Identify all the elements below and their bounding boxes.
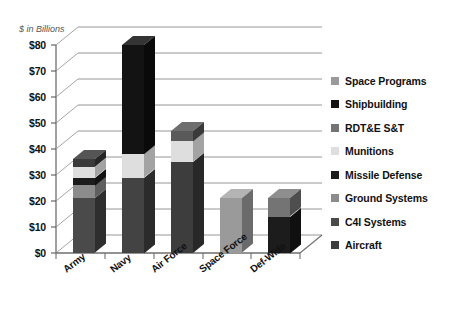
legend-label: Ground Systems [345, 192, 428, 204]
y-axis-title: $ in Billions [19, 24, 65, 34]
bar-navy[interactable] [122, 0, 144, 326]
segment-def-wide-rdte-st[interactable] [268, 198, 290, 216]
legend-swatch-icon [331, 194, 339, 202]
segment-air-force-rdte-st[interactable] [171, 131, 193, 141]
y-tick-0: $0 [6, 247, 46, 259]
y-tick-40: $40 [6, 143, 46, 155]
bar-space-force[interactable] [220, 0, 242, 326]
legend-label: Missile Defense [345, 169, 422, 181]
legend-item-c4i-systems[interactable]: C4I Systems [331, 210, 471, 234]
segment-army-munitions[interactable] [73, 167, 95, 177]
chart-legend: Space Programs Shipbuilding RDT&E S&T Mu… [331, 69, 471, 257]
legend-item-rdte-st[interactable]: RDT&E S&T [331, 116, 471, 140]
chart-container: $ in Billions $80 $70 $60 $50 $40 $30 $2… [0, 0, 474, 326]
legend-label: Shipbuilding [345, 98, 407, 110]
legend-item-space-programs[interactable]: Space Programs [331, 69, 471, 93]
y-tick-10: $10 [6, 221, 46, 233]
legend-item-munitions[interactable]: Munitions [331, 140, 471, 164]
y-tick-60: $60 [6, 91, 46, 103]
legend-item-ground-systems[interactable]: Ground Systems [331, 187, 471, 211]
legend-item-missile-defense[interactable]: Missile Defense [331, 163, 471, 187]
legend-item-shipbuilding[interactable]: Shipbuilding [331, 93, 471, 117]
legend-item-aircraft[interactable]: Aircraft [331, 234, 471, 258]
segment-air-force-munitions[interactable] [171, 141, 193, 162]
legend-swatch-icon [331, 100, 339, 108]
legend-swatch-icon [331, 218, 339, 226]
legend-label: Aircraft [345, 239, 382, 251]
segment-navy-ground-systems[interactable] [122, 178, 144, 253]
y-tick-20: $20 [6, 195, 46, 207]
legend-swatch-icon [331, 171, 339, 179]
bar-def-wide[interactable] [268, 0, 290, 326]
y-tick-80: $80 [6, 39, 46, 51]
legend-label: Space Programs [345, 75, 426, 87]
legend-label: C4I Systems [345, 216, 406, 228]
legend-swatch-icon [331, 124, 339, 132]
y-tick-30: $30 [6, 169, 46, 181]
y-tick-70: $70 [6, 65, 46, 77]
legend-label: RDT&E S&T [345, 122, 404, 134]
legend-swatch-icon [331, 77, 339, 85]
bar-air-force[interactable] [171, 0, 193, 326]
segment-navy-shipbuilding[interactable] [122, 45, 144, 154]
segment-army-c4i-systems[interactable] [73, 198, 95, 253]
segment-army-ground-systems[interactable] [73, 185, 95, 198]
segment-navy-munitions[interactable] [122, 154, 144, 177]
legend-swatch-icon [331, 241, 339, 249]
segment-army-missile-defense[interactable] [73, 178, 95, 186]
segment-army-rdte-st[interactable] [73, 159, 95, 167]
y-tick-50: $50 [6, 117, 46, 129]
legend-swatch-icon [331, 147, 339, 155]
bar-army[interactable] [73, 0, 95, 326]
legend-label: Munitions [345, 145, 394, 157]
